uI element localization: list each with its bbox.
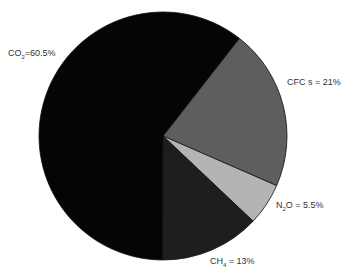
label-n2o: N2O = 5.5% xyxy=(276,200,324,212)
label-cfcs: CFC s = 21% xyxy=(287,77,341,87)
label-ch4: CH4 = 13% xyxy=(210,256,255,268)
label-co2: CO2=60.5% xyxy=(8,48,56,60)
pie-chart xyxy=(0,0,344,273)
